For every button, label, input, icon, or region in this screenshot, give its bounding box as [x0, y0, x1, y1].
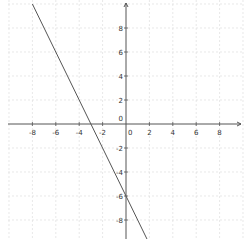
y-tick-label: 0 [119, 115, 123, 123]
y-tick-label: 2 [119, 97, 123, 105]
y-tick-label: 4 [119, 73, 124, 81]
x-tick-label: 0 [128, 129, 132, 137]
y-tick-label: -2 [116, 145, 123, 153]
x-tick-label: 6 [194, 129, 199, 137]
y-tick-label: 6 [119, 49, 124, 57]
y-tick-label: 8 [119, 25, 123, 33]
x-tick-label: 2 [147, 129, 151, 137]
x-tick-label: -4 [76, 129, 84, 137]
y-tick-label: -8 [116, 217, 123, 225]
y-tick-label: -6 [116, 193, 124, 201]
x-tick-label: -8 [29, 129, 36, 137]
axes [8, 3, 241, 239]
x-tick-label: -2 [99, 129, 106, 137]
line-series [32, 4, 147, 239]
y-tick-label: -4 [116, 169, 124, 177]
x-tick-label: -6 [52, 129, 60, 137]
x-tick-label: 4 [171, 129, 176, 137]
graph-plot: -8-6-4-202468-8-6-4-202468 [0, 0, 244, 239]
x-tick-label: 8 [217, 129, 221, 137]
function-line [32, 4, 147, 239]
